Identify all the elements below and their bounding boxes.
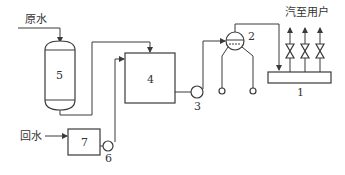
component-2-label: 2: [248, 30, 255, 43]
raw-water-inlet: 原水: [18, 13, 60, 42]
tank-7: 7: [68, 129, 100, 155]
return-water-label: 回水: [20, 130, 42, 143]
steam-to-users-label: 汽至用户: [285, 5, 329, 19]
pump-3: 3: [175, 41, 225, 113]
component-5-label: 5: [56, 69, 63, 82]
return-water-inlet: 回水: [20, 130, 67, 143]
component-7-label: 7: [81, 136, 88, 149]
steam-header-1: 1: [268, 72, 331, 99]
tank-4: 4: [125, 53, 175, 103]
component-4-label: 4: [147, 73, 154, 86]
pump-6: 6: [100, 59, 124, 165]
component-1-label: 1: [297, 86, 304, 99]
steam-outlets: 汽至用户: [285, 5, 329, 72]
valve-3: [316, 28, 324, 72]
component-3-label: 3: [194, 100, 201, 113]
vessel-5: 5: [45, 41, 75, 110]
raw-water-label: 原水: [25, 13, 47, 26]
component-6-label: 6: [105, 152, 112, 165]
valve-2: [301, 28, 309, 72]
process-flow-diagram: 原水 5 4 回水 7 6 3: [0, 0, 345, 175]
valve-1: [286, 28, 294, 72]
